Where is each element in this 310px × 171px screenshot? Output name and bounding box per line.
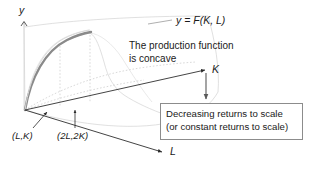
concavity-note-line2: is concave [129,53,176,65]
dotted-ray-lower [25,80,144,110]
callout-line-1: Decreasing returns to scale [166,108,297,121]
production-function-formula: y = F(K, L) [176,14,225,27]
point-label-2L2K: (2L,2K) [57,130,88,142]
production-function-figure: y y = F(K, L) The production function is… [0,0,310,171]
callout-line-2: (or constant returns to scale) [166,121,297,134]
diagram-canvas [0,0,310,171]
concavity-note-line1: The production function [129,40,234,52]
l-axis-label: L [170,145,176,158]
returns-to-scale-callout: Decreasing returns to scale (or constant… [160,103,303,140]
formula-leader-line [148,20,172,24]
point-label-LK: (L,K) [12,130,33,142]
k-axis-label: K [212,63,219,76]
surface-right-ridge [208,16,218,92]
y-axis-label: y [19,4,24,17]
l-axis [25,110,162,152]
